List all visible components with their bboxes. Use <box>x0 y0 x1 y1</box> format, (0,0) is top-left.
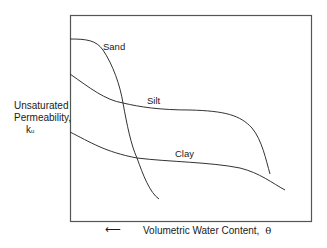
y-axis-label-line1: Unsaturated <box>14 100 68 111</box>
y-axis-label-line2: Permeability, <box>14 112 71 123</box>
sand-label: Sand <box>103 41 125 52</box>
left-arrow-icon: ⟵ <box>105 223 121 236</box>
clay-curve <box>70 132 285 190</box>
x-axis-label: Volumetric Water Content,θ <box>143 225 271 236</box>
theta-symbol: θ <box>265 225 271 236</box>
clay-label: Clay <box>175 148 194 159</box>
x-axis-label-text: Volumetric Water Content, <box>143 225 259 236</box>
y-axis-label: Unsaturated Permeability, ku <box>14 100 76 137</box>
silt-curve <box>70 74 270 174</box>
y-axis-symbol: ku <box>14 124 76 137</box>
sand-curve <box>70 39 159 199</box>
u-subscript: u <box>31 128 34 134</box>
silt-label: Silt <box>147 95 160 106</box>
